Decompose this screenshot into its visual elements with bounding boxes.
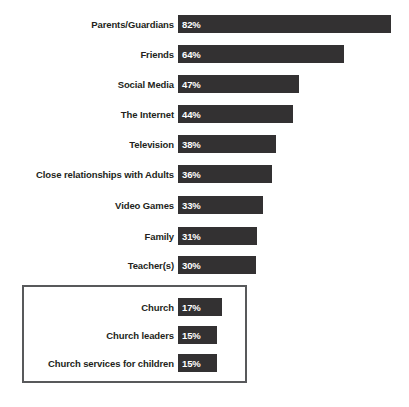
bar: 15% (178, 326, 217, 344)
bar: 17% (178, 298, 222, 316)
category-label: Teacher(s) (128, 260, 174, 271)
bar-value-label: 15% (182, 358, 201, 369)
bar: 38% (178, 135, 276, 153)
category-label: Church services for children (48, 358, 174, 369)
bar-row: Family 31% (0, 227, 409, 245)
category-label: Family (145, 231, 175, 242)
bar-value-label: 36% (182, 169, 201, 180)
bar-row: Video Games 33% (0, 196, 409, 214)
bar-row: Close relationships with Adults 36% (0, 165, 409, 183)
bar: 15% (178, 354, 217, 372)
bar-row: Teacher(s) 30% (0, 256, 409, 274)
bar-row: Church leaders 15% (0, 326, 409, 344)
bar-value-label: 31% (182, 231, 201, 242)
bar-row: The Internet 44% (0, 105, 409, 123)
bar-value-label: 44% (182, 109, 201, 120)
category-label: Church leaders (106, 330, 174, 341)
bar-row: Social Media 47% (0, 75, 409, 93)
bar-value-label: 33% (182, 200, 201, 211)
category-label: Video Games (115, 200, 174, 211)
bar-value-label: 15% (182, 330, 201, 341)
bar-rows: Parents/Guardians 82% Friends 64% Social… (0, 0, 409, 407)
bar-value-label: 38% (182, 139, 201, 150)
bar: 33% (178, 196, 263, 214)
category-label: Social Media (118, 79, 174, 90)
category-label: The Internet (121, 109, 174, 120)
bar: 30% (178, 256, 256, 274)
bar-value-label: 82% (182, 19, 201, 30)
bar: 44% (178, 105, 293, 123)
bar-row: Parents/Guardians 82% (0, 15, 409, 33)
category-label: Friends (140, 49, 174, 60)
bar-row: Television 38% (0, 135, 409, 153)
bar: 47% (178, 75, 299, 93)
bar-row: Friends 64% (0, 45, 409, 63)
bar-value-label: 30% (182, 260, 201, 271)
category-label: Close relationships with Adults (36, 169, 174, 180)
bar: 31% (178, 227, 257, 245)
bar-value-label: 47% (182, 79, 201, 90)
bar-row: Church services for children 15% (0, 354, 409, 372)
bar-chart: Parents/Guardians 82% Friends 64% Social… (0, 0, 409, 407)
bar: 82% (178, 15, 391, 33)
bar-value-label: 17% (182, 302, 201, 313)
category-label: Parents/Guardians (91, 19, 174, 30)
category-label: Church (141, 302, 174, 313)
category-label: Television (129, 139, 174, 150)
bar-value-label: 64% (182, 49, 201, 60)
bar: 36% (178, 165, 272, 183)
bar: 64% (178, 45, 344, 63)
bar-row: Church 17% (0, 298, 409, 316)
